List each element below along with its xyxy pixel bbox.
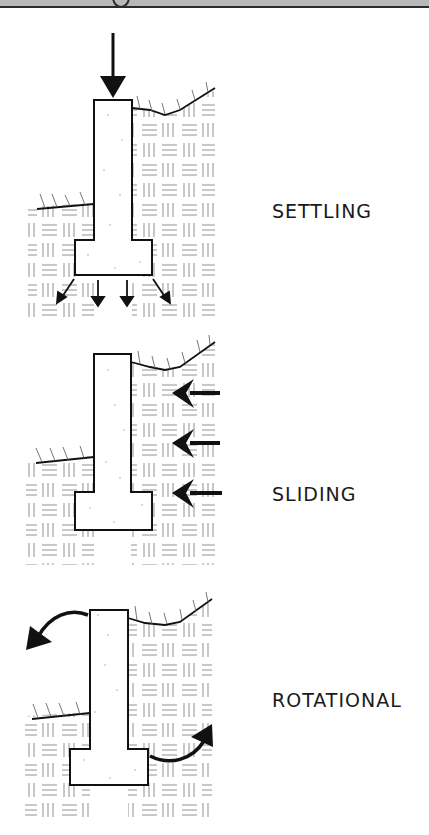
retained-soil bbox=[132, 90, 215, 320]
label-sliding: SLIDING bbox=[272, 483, 356, 505]
label-settling: SETTLING bbox=[272, 200, 372, 222]
diagram-rotational bbox=[25, 592, 213, 823]
diagram-settling bbox=[28, 33, 215, 320]
retained-soil bbox=[131, 342, 215, 565]
rotation-arrow-top-icon bbox=[26, 612, 88, 650]
diagram-sliding bbox=[26, 335, 222, 565]
retained-soil bbox=[128, 600, 212, 823]
label-rotational: ROTATIONAL bbox=[272, 689, 402, 711]
load-arrow-icon bbox=[100, 33, 126, 98]
